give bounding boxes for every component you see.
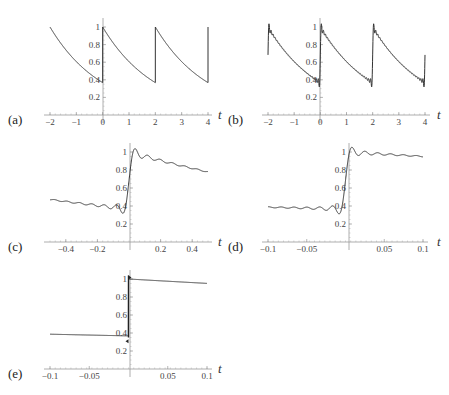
y-tick-label: 0.4 bbox=[116, 328, 128, 338]
x-tick-label: 1 bbox=[344, 117, 349, 127]
x-tick-label: 0 bbox=[318, 117, 323, 127]
x-tick-label: 4 bbox=[206, 117, 211, 127]
x-tick-label: −2 bbox=[45, 117, 55, 127]
figure-panels: −2−1012340.20.40.60.81t(a)−2−1012340.20.… bbox=[0, 0, 449, 395]
y-tick-label: 0.8 bbox=[116, 165, 128, 175]
x-axis-label: t bbox=[437, 107, 441, 122]
x-tick-label: 3 bbox=[179, 117, 184, 127]
x-tick-label: 2 bbox=[153, 117, 158, 127]
y-tick-label: 0.2 bbox=[116, 346, 127, 356]
y-tick-label: 0.2 bbox=[116, 219, 127, 229]
chart-panel-b: −2−1012340.20.40.60.81t(b) bbox=[228, 18, 441, 127]
x-tick-label: −0.1 bbox=[260, 244, 276, 254]
y-tick-label: 0.6 bbox=[116, 310, 128, 320]
y-tick-label: 1 bbox=[123, 147, 128, 157]
y-tick-label: 0.8 bbox=[116, 292, 128, 302]
y-tick-label: 1 bbox=[342, 147, 347, 157]
y-tick-label: 0.8 bbox=[306, 40, 318, 50]
x-tick-label: 0.05 bbox=[376, 244, 392, 254]
chart-panel-e: −0.1−0.050.050.10.20.40.60.81t(e) bbox=[8, 270, 222, 381]
panel-label: (b) bbox=[228, 112, 243, 127]
y-tick-label: 1 bbox=[313, 22, 318, 32]
y-tick-label: 1 bbox=[96, 22, 101, 32]
x-tick-label: 0.1 bbox=[417, 244, 428, 254]
data-curve bbox=[50, 27, 208, 83]
x-tick-label: −0.2 bbox=[89, 244, 105, 254]
chart-panel-d: −0.1−0.050.050.10.20.40.60.81t(d) bbox=[228, 143, 441, 254]
y-tick-label: 0.2 bbox=[89, 92, 100, 102]
y-tick-label: 0.4 bbox=[335, 201, 347, 211]
y-tick-label: 0.8 bbox=[89, 40, 101, 50]
x-tick-label: −0.05 bbox=[79, 371, 100, 381]
x-tick-label: 0 bbox=[100, 117, 105, 127]
x-tick-label: 2 bbox=[370, 117, 375, 127]
x-tick-label: −1 bbox=[289, 117, 299, 127]
panel-label: (a) bbox=[8, 112, 22, 127]
x-axis-label: t bbox=[218, 361, 222, 376]
y-tick-label: 0.6 bbox=[89, 57, 101, 67]
y-tick-label: 0.2 bbox=[306, 92, 317, 102]
x-tick-label: 3 bbox=[397, 117, 402, 127]
chart-panel-a: −2−1012340.20.40.60.81t(a) bbox=[8, 18, 222, 127]
x-tick-label: −0.1 bbox=[42, 371, 58, 381]
x-tick-label: −0.4 bbox=[58, 244, 75, 254]
data-curve bbox=[50, 149, 208, 214]
y-tick-label: 0.2 bbox=[335, 219, 346, 229]
y-tick-label: 0.6 bbox=[306, 57, 318, 67]
chart-panel-c: −0.4−0.20.20.40.20.40.60.81t(c) bbox=[8, 143, 222, 254]
x-tick-label: −0.05 bbox=[296, 244, 317, 254]
x-axis-label: t bbox=[218, 234, 222, 249]
x-axis-label: t bbox=[437, 234, 441, 249]
data-curve bbox=[268, 24, 425, 87]
y-tick-label: 1 bbox=[123, 274, 128, 284]
x-tick-label: −2 bbox=[263, 117, 273, 127]
panel-label: (c) bbox=[8, 239, 22, 254]
x-tick-label: 4 bbox=[423, 117, 428, 127]
panel-label: (d) bbox=[228, 239, 243, 254]
x-tick-label: −1 bbox=[72, 117, 82, 127]
x-tick-label: 1 bbox=[127, 117, 132, 127]
x-tick-label: 0.4 bbox=[187, 244, 199, 254]
y-tick-label: 0.8 bbox=[335, 165, 347, 175]
x-tick-label: 0.2 bbox=[155, 244, 166, 254]
x-tick-label: 0.05 bbox=[160, 371, 176, 381]
x-tick-label: 0.1 bbox=[201, 371, 212, 381]
x-axis-label: t bbox=[218, 107, 222, 122]
panel-label: (e) bbox=[8, 366, 22, 381]
y-tick-label: 0.6 bbox=[116, 183, 128, 193]
